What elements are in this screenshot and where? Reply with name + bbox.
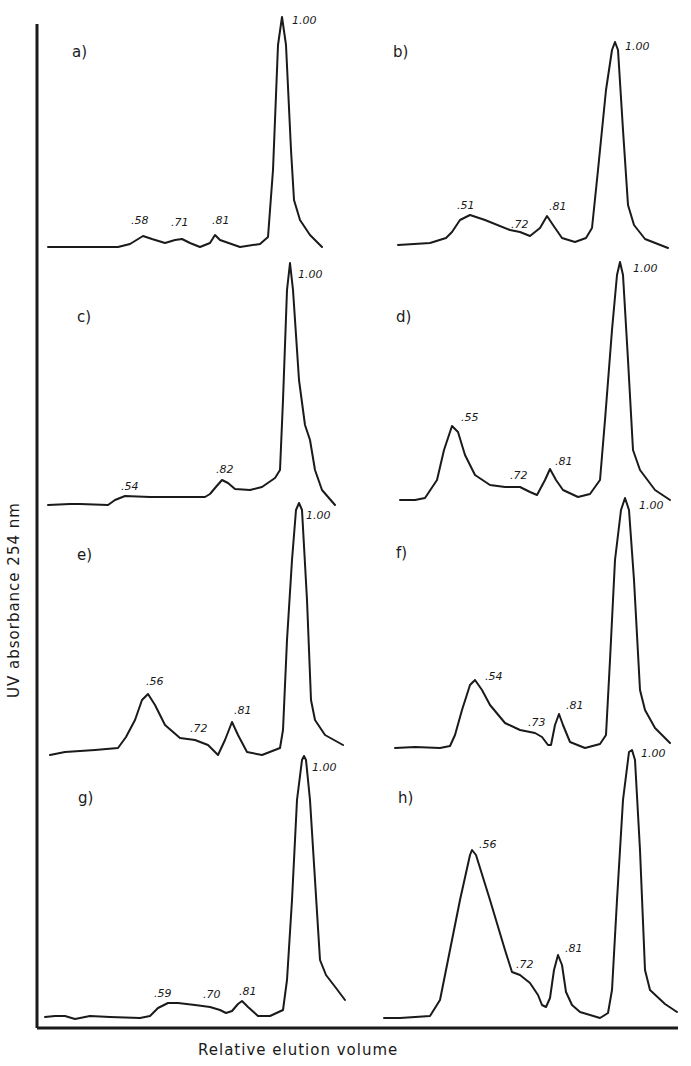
panel-h: h).56.72.811.00 [384,747,677,1018]
peak-label: .72 [510,469,528,482]
panel-title: f) [396,544,407,562]
panel-f: f).54.73.811.00 [395,498,670,748]
peak-label: .58 [131,214,149,227]
panel-title: h) [398,789,413,807]
peak-label: .56 [146,675,164,688]
panel-title: d) [396,308,411,326]
peak-label: .82 [216,463,234,476]
peak-label: .55 [461,411,479,424]
peak-label: .54 [121,480,139,493]
panel-e: e).56.72.811.00 [50,503,343,755]
panel-c: c).54.821.00 [48,263,335,505]
peak-label: .56 [479,838,497,851]
peak-label: .81 [565,942,583,955]
peak-label: .72 [511,218,529,231]
elution-trace [400,262,670,500]
peak-label: 1.00 [639,499,664,512]
elution-trace [48,263,335,505]
peak-label: .54 [485,670,503,683]
peak-label: .72 [516,958,534,971]
peak-label: 1.00 [633,262,658,275]
panel-a: a).58.71.811.00 [48,14,322,247]
panel-title: b) [393,43,408,61]
elution-trace [48,17,322,247]
peak-label: 1.00 [641,747,666,760]
panel-title: g) [78,789,93,807]
peak-label: .51 [457,199,475,212]
y-axis-label: UV absorbance 254 nm [5,502,23,698]
peak-label: 1.00 [625,40,650,53]
elution-trace [50,503,343,755]
elution-profiles-figure: UV absorbance 254 nm Relative elution vo… [0,0,691,1066]
peak-label: .81 [566,699,584,712]
elution-trace [398,42,668,248]
peak-label: .71 [171,216,189,229]
peak-label: 1.00 [312,761,337,774]
peak-label: .72 [190,722,208,735]
peak-label: .81 [555,455,573,468]
peak-label: .81 [234,704,252,717]
peak-label: .59 [154,987,172,1000]
panel-title: a) [72,43,87,61]
peak-label: .70 [203,988,221,1001]
chromatogram-panels: a).58.71.811.00b).51.72.811.00c).54.821.… [45,14,677,1019]
peak-label: .81 [212,214,230,227]
panel-d: d).55.72.811.00 [396,262,670,500]
panel-title: e) [77,546,92,564]
peak-label: 1.00 [306,509,331,522]
panel-g: g).59.70.811.00 [45,756,345,1019]
peak-label: 1.00 [298,268,323,281]
elution-trace [384,750,677,1018]
peak-label: .81 [549,200,567,213]
x-axis-label: Relative elution volume [198,1041,398,1059]
panel-title: c) [77,308,91,326]
peak-label: .73 [528,716,546,729]
peak-label: .81 [239,985,257,998]
peak-label: 1.00 [292,14,317,27]
panel-b: b).51.72.811.00 [393,40,668,248]
elution-trace [395,498,670,748]
